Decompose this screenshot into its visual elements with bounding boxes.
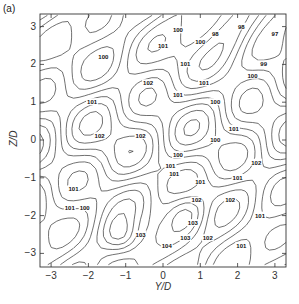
contour-label: 100 bbox=[248, 73, 259, 79]
contour-label: 101 bbox=[199, 80, 210, 86]
x-axis-label: Y/D bbox=[150, 281, 176, 292]
contour-label: 98 bbox=[238, 24, 245, 30]
x-tick-label: −1 bbox=[116, 270, 136, 281]
contour-lines bbox=[40, 15, 286, 264]
y-tick-label: 0 bbox=[16, 134, 36, 145]
contour-label: 101 bbox=[173, 92, 184, 98]
contour-plot: 1001011011021011011021021009810098979910… bbox=[0, 0, 299, 304]
x-tick-label: 1 bbox=[190, 270, 210, 281]
contour-label: 103 bbox=[188, 220, 199, 226]
contour-label: 100 bbox=[173, 152, 184, 158]
y-tick-label: 1 bbox=[16, 96, 36, 107]
contour-label: 101 bbox=[165, 163, 176, 169]
contour-label: 102 bbox=[203, 235, 214, 241]
contour-label: 100 bbox=[80, 205, 91, 211]
contour-label: 103 bbox=[180, 235, 191, 241]
contour-label: 101 bbox=[180, 61, 191, 67]
contour-label: 102 bbox=[95, 133, 106, 139]
contour-label: 101 bbox=[68, 186, 79, 192]
contour-label: 101 bbox=[236, 243, 247, 249]
contour-label: 101 bbox=[65, 205, 76, 211]
contour-label: 101 bbox=[87, 99, 98, 105]
y-tick-label: −3 bbox=[16, 247, 36, 258]
y-axis-label: Z/D bbox=[8, 127, 19, 151]
y-tick-label: 3 bbox=[16, 21, 36, 32]
contour-label: 100 bbox=[173, 27, 184, 33]
contour-label: 100 bbox=[195, 39, 206, 45]
x-tick-label: 3 bbox=[265, 270, 285, 281]
contour-label: 102 bbox=[225, 197, 236, 203]
contour-label: 99 bbox=[260, 61, 267, 67]
contour-label: 102 bbox=[136, 133, 147, 139]
contour-label: 104 bbox=[162, 243, 173, 249]
contour-label: 100 bbox=[98, 54, 109, 60]
y-tick-label: −1 bbox=[16, 172, 36, 183]
contour-label: 102 bbox=[192, 197, 203, 203]
contour-label: 102 bbox=[251, 160, 262, 166]
y-tick-label: −2 bbox=[16, 210, 36, 221]
contour-label: 103 bbox=[136, 232, 147, 238]
contour-label: 101 bbox=[195, 179, 206, 185]
contour-label: 98 bbox=[212, 31, 219, 37]
contour-path bbox=[40, 15, 286, 264]
contour-label: 102 bbox=[143, 80, 154, 86]
x-tick-label: 2 bbox=[228, 270, 248, 281]
contour-label: 101 bbox=[255, 213, 266, 219]
contour-label: 101 bbox=[233, 175, 244, 181]
contour-label: 101 bbox=[169, 171, 180, 177]
x-tick-label: −2 bbox=[78, 270, 98, 281]
contour-label: 101 bbox=[158, 43, 169, 49]
y-tick-label: 2 bbox=[16, 58, 36, 69]
x-tick-label: 0 bbox=[153, 270, 173, 281]
contour-label: 100 bbox=[210, 99, 221, 105]
contour-label: 101 bbox=[229, 126, 240, 132]
contour-label: 97 bbox=[272, 31, 279, 37]
contour-label: 100 bbox=[210, 137, 221, 143]
x-tick-label: −3 bbox=[41, 270, 61, 281]
